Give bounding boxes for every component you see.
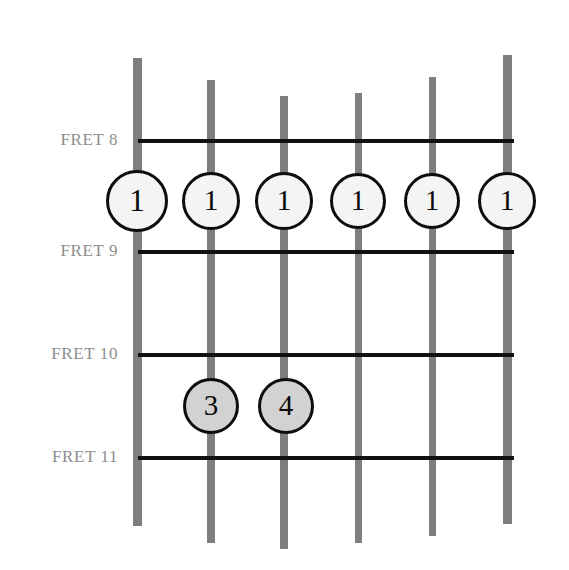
- fret-label-fret-10: FRET 10: [8, 345, 118, 362]
- string-5: [429, 77, 436, 536]
- string-4: [355, 93, 362, 543]
- finger-number: 1: [351, 186, 366, 215]
- fretboard: FRET 8FRET 9FRET 10FRET 11 11111134: [0, 0, 569, 570]
- finger-marker-string3-fret10[interactable]: 4: [258, 378, 314, 434]
- finger-number: 1: [425, 186, 440, 215]
- finger-number: 4: [279, 391, 294, 420]
- finger-number: 1: [204, 185, 219, 215]
- string-2: [207, 80, 215, 543]
- fret-11-line: [138, 456, 514, 460]
- finger-marker-string2-fret8[interactable]: 1: [182, 172, 240, 230]
- finger-number: 1: [129, 184, 145, 216]
- finger-marker-string2-fret10[interactable]: 3: [183, 378, 239, 434]
- string-6: [503, 55, 512, 524]
- fret-8-line: [138, 139, 514, 143]
- fret-label-fret-11: FRET 11: [8, 448, 118, 465]
- fret-label-fret-8: FRET 8: [8, 131, 118, 148]
- finger-marker-string1-fret8[interactable]: 1: [106, 170, 168, 232]
- finger-number: 3: [204, 391, 219, 420]
- finger-number: 1: [500, 185, 515, 215]
- finger-number: 1: [277, 185, 292, 215]
- fret-10-line: [138, 353, 514, 357]
- guitar-fretboard-diagram: FRET 8FRET 9FRET 10FRET 11 11111134: [0, 0, 569, 570]
- fret-9-line: [138, 250, 514, 254]
- finger-marker-string3-fret8[interactable]: 1: [255, 172, 313, 230]
- string-3: [280, 96, 288, 549]
- finger-marker-string4-fret8[interactable]: 1: [330, 173, 386, 229]
- finger-marker-string6-fret8[interactable]: 1: [478, 172, 536, 230]
- finger-marker-string5-fret8[interactable]: 1: [404, 173, 460, 229]
- fret-label-fret-9: FRET 9: [8, 242, 118, 259]
